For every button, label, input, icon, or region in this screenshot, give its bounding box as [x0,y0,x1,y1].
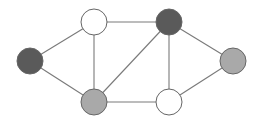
graph-diagram [0,0,260,126]
node-top-right [156,9,182,35]
edge-top-right-bottom-left [94,22,169,102]
node-top-left [81,9,107,35]
node-left [17,48,43,74]
node-bottom-right [156,89,182,115]
node-right [220,48,246,74]
edge-layer [30,22,233,102]
node-bottom-left [81,89,107,115]
